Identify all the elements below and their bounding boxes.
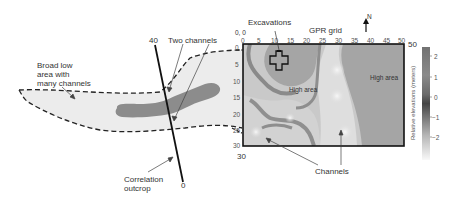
x-tick: 30 [335, 37, 342, 44]
label-line: Correlation [124, 175, 163, 184]
x-tick: 35 [351, 37, 358, 44]
colorbar-tick: −2 [432, 134, 439, 141]
x-tick: 50 [398, 37, 405, 44]
y-tick: 20 [233, 111, 240, 118]
colorbar-title: Relative elevations (meters) [410, 66, 416, 140]
gpr-heatmap [243, 44, 404, 146]
x-tick: 40 [367, 37, 374, 44]
x-tick: 45 [383, 37, 390, 44]
x-tick: 20 [303, 37, 310, 44]
colorbar-tick: 0 [434, 94, 438, 101]
y-tick: 30 [233, 142, 240, 149]
x-tick: 15 [287, 37, 294, 44]
x-tick: 5 [257, 37, 261, 44]
channels-label: Channels [315, 167, 349, 176]
x-tick: 10 [271, 37, 278, 44]
high-area-right-label: High area [370, 73, 398, 82]
x-tick: 25 [319, 37, 326, 44]
label-line: area with [37, 70, 91, 79]
colorbar-tick: 2 [434, 53, 438, 60]
colorbar-tick: −1 [432, 114, 439, 121]
corner-label-right: 50 [408, 40, 417, 49]
figure-canvas [0, 0, 455, 202]
colorbar-tick: 1 [434, 74, 438, 81]
correlation-bottom-label: 0 [181, 181, 185, 190]
label-broad-low-area: Broad low area with many channels [37, 61, 91, 88]
label-line: Broad low [37, 61, 91, 70]
y-tick: 5 [235, 61, 239, 68]
y-tick: 0 [235, 44, 239, 51]
y-tick: 10 [233, 78, 240, 85]
excavation-marker [277, 50, 281, 52]
colorbar [422, 47, 430, 160]
label-two-channels: Two channels [168, 36, 217, 45]
y-tick: 25 [233, 127, 240, 134]
label-correlation-outcrop: Correlation outcrop [124, 175, 163, 193]
origin-label: 0, 0 [235, 28, 246, 37]
label-line: outcrop [124, 184, 163, 193]
corner-label-bottom: 30 [237, 152, 246, 161]
y-tick: 15 [233, 94, 240, 101]
correlation-top-label: 40 [149, 36, 158, 45]
x-tick: 0 [241, 37, 245, 44]
gpr-grid-title: GPR grid [309, 26, 342, 35]
excavations-label: Excavations [248, 18, 291, 27]
label-line: many channels [37, 79, 91, 88]
high-area-left-label: High area [289, 85, 317, 94]
north-label: N [367, 12, 372, 21]
